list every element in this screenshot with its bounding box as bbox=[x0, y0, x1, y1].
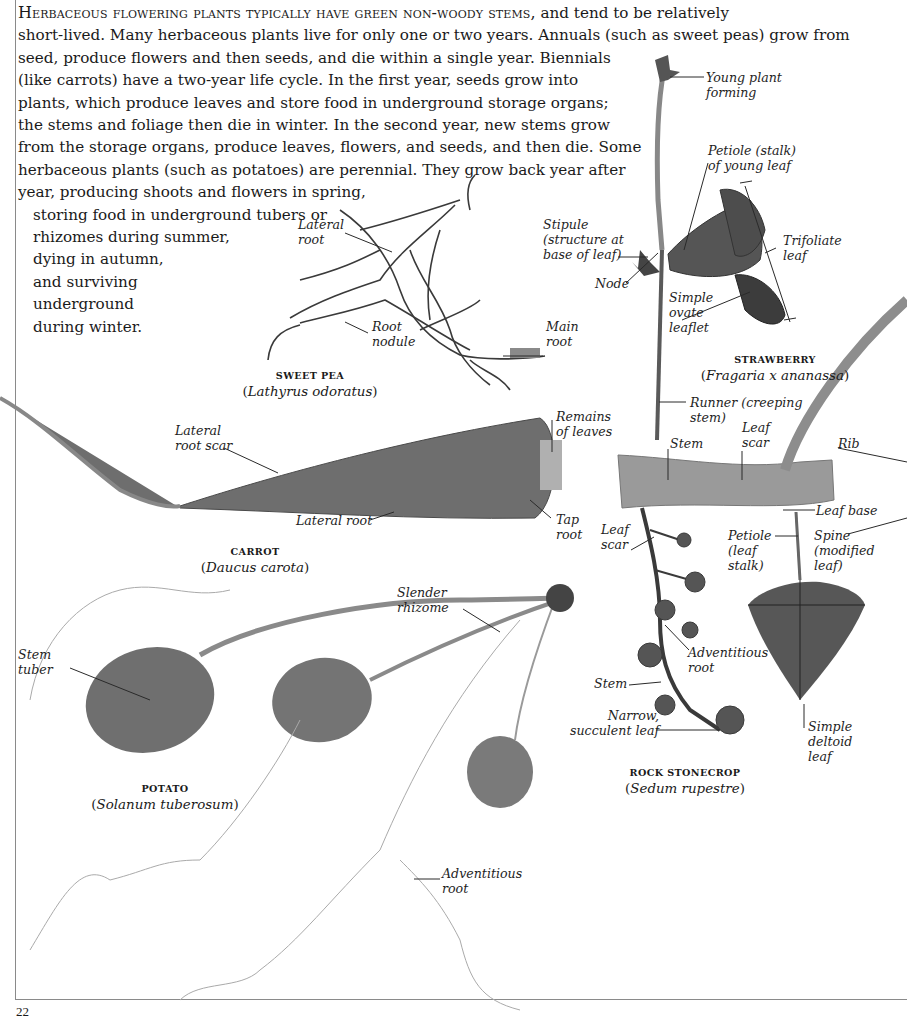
label-leaf-petiole: Petiole (leaf stalk) bbox=[728, 528, 772, 573]
label-young-plant-forming: Young plant forming bbox=[706, 70, 782, 100]
label-stonecrop-adventitious-root: Adventitious root bbox=[688, 645, 768, 675]
label-remains-of-leaves: Remains of leaves bbox=[556, 409, 612, 439]
carrot-image bbox=[0, 398, 562, 518]
label-slender-rhizome: Slender rhizome bbox=[397, 585, 449, 615]
label-simple-deltoid-leaf: Simple deltoid leaf bbox=[808, 719, 852, 764]
label-petiole-young-leaf: Petiole (stalk) of young leaf bbox=[708, 143, 796, 173]
intro-lead-small-caps: Herbaceous flowering plants typically ha… bbox=[18, 3, 536, 22]
intro-line: dying in autumn, bbox=[18, 248, 898, 270]
label-stonecrop-leaf-scar: Leaf scar bbox=[601, 522, 629, 552]
intro-line: year, producing shoots and flowers in sp… bbox=[18, 181, 898, 203]
intro-line: underground bbox=[18, 293, 898, 315]
intro-line: short-lived. Many herbaceous plants live… bbox=[18, 24, 898, 46]
intro-line: the stems and foliage then die in winter… bbox=[18, 114, 898, 136]
label-simple-ovate-leaflet: Simple ovate leaflet bbox=[669, 290, 713, 335]
intro-line: storing food in underground tubers or bbox=[18, 204, 898, 226]
intro-line-1: Herbaceous flowering plants typically ha… bbox=[18, 2, 898, 24]
label-root-nodule: Root nodule bbox=[372, 319, 415, 349]
label-stem-cutting-stem: Stem bbox=[670, 436, 703, 451]
label-tap-root: Tap root bbox=[556, 512, 582, 542]
label-spine-modified-leaf: Spine (modified leaf) bbox=[814, 528, 874, 573]
label-potato-adventitious-root: Adventitious root bbox=[442, 866, 522, 896]
specimen-name-strawberry: STRAWBERRY (Fragaria x ananassa) bbox=[690, 352, 860, 384]
label-stem-tuber: Stem tuber bbox=[18, 647, 53, 677]
label-leaf-base: Leaf base bbox=[816, 503, 877, 518]
specimen-name-potato: POTATO (Solanum tuberosum) bbox=[80, 781, 250, 813]
label-carrot-lateral-root: Lateral root bbox=[296, 513, 372, 528]
specimen-name-carrot: CARROT (Daucus carota) bbox=[185, 544, 325, 576]
label-narrow-succulent-leaf: Narrow, succulent leaf bbox=[570, 708, 659, 738]
label-trifoliate-leaf: Trifoliate leaf bbox=[783, 233, 842, 263]
label-node: Node bbox=[595, 276, 629, 291]
label-rib: Rib bbox=[838, 436, 860, 451]
intro-line: during winter. bbox=[18, 316, 898, 338]
label-stem-cutting-leaf-scar: Leaf scar bbox=[742, 420, 770, 450]
intro-line: and surviving bbox=[18, 271, 898, 293]
label-main-root: Main root bbox=[546, 319, 579, 349]
label-lateral-root-scar: Lateral root scar bbox=[175, 423, 232, 453]
label-sweet-pea-lateral-root: Lateral root bbox=[298, 217, 344, 247]
specimen-name-rock-stonecrop: ROCK STONECROP (Sedum rupestre) bbox=[610, 765, 760, 797]
specimen-name-sweet-pea: SWEET PEA (Lathyrus odoratus) bbox=[240, 368, 380, 400]
intro-line: seed, produce flowers and then seeds, an… bbox=[18, 47, 898, 69]
label-stipule: Stipule (structure at base of leaf) bbox=[543, 217, 624, 262]
label-stonecrop-stem: Stem bbox=[594, 676, 627, 691]
intro-line: rhizomes during summer, bbox=[18, 226, 898, 248]
